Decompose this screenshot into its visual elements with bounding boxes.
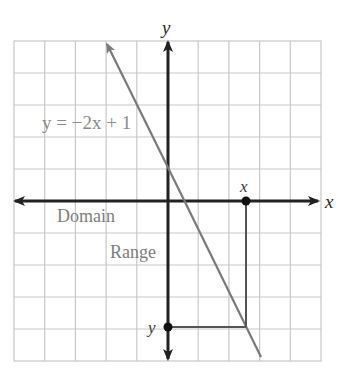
- range-label: Range: [110, 242, 156, 262]
- x-point-marker: [242, 197, 251, 206]
- domain-label: Domain: [57, 206, 115, 226]
- y-point-label: y: [146, 318, 156, 337]
- y-axis-label: y: [160, 17, 171, 38]
- x-axis-label: x: [324, 191, 334, 212]
- x-point-label: x: [239, 177, 248, 196]
- function-graph-figure: y x x y y = −2x + 1 Domain Range: [0, 0, 345, 380]
- y-point-marker: [164, 323, 173, 332]
- equation-label: y = −2x + 1: [42, 112, 131, 133]
- mapping-path: [168, 201, 246, 327]
